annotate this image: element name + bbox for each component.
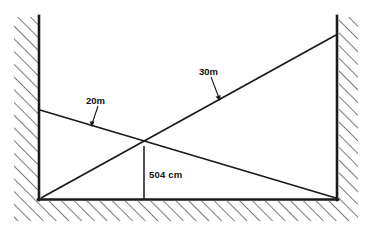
geometry-figure: 20m 30m 504 cm	[0, 0, 367, 236]
right-wall-hatching	[339, 17, 358, 201]
floor-hatching	[14, 201, 358, 221]
left-wall-hatching	[14, 17, 38, 201]
leader-20m	[90, 106, 98, 127]
ladder-30m-line	[41, 35, 336, 198]
label-ladder-30m: 30m	[199, 66, 218, 77]
leader-30m	[211, 77, 221, 101]
diagram-canvas: 20m 30m 504 cm	[0, 0, 367, 236]
ladder-20m-line	[40, 110, 336, 198]
label-crossing-height: 504 cm	[149, 169, 182, 180]
label-ladder-20m: 20m	[86, 95, 105, 106]
